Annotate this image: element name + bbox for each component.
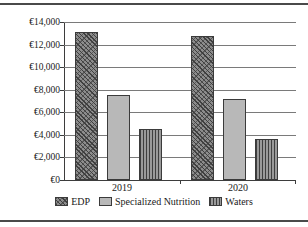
- y-axis-tick: [60, 90, 64, 91]
- document-rule-bottom: [0, 220, 308, 222]
- bar-chart: €0€2,000€4,000€6,000€8,000€10,000€12,000…: [0, 5, 308, 220]
- y-axis-tick: [60, 67, 64, 68]
- y-axis-tick-label: €14,000: [29, 18, 60, 28]
- bar-edp-2019: [75, 32, 98, 180]
- legend-label: EDP: [71, 196, 90, 207]
- y-axis-tick-label: €10,000: [29, 63, 60, 73]
- legend-swatch-icon: [209, 197, 222, 206]
- bar-edp-2020: [191, 36, 214, 180]
- y-axis-tick-label: €0: [51, 176, 61, 186]
- chart-legend: EDPSpecialized NutritionWaters: [0, 196, 308, 207]
- legend-item-edp[interactable]: EDP: [55, 196, 90, 207]
- bar-specialized-nutrition-2020: [223, 99, 246, 180]
- y-axis-tick: [60, 135, 64, 136]
- y-axis-tick: [60, 22, 64, 23]
- y-axis-tick: [60, 112, 64, 113]
- legend-swatch-icon: [55, 197, 68, 206]
- gridline: [64, 135, 296, 136]
- bar-waters-2019: [139, 129, 162, 180]
- gridline: [64, 90, 296, 91]
- y-axis-tick-label: €2,000: [34, 153, 60, 163]
- legend-label: Specialized Nutrition: [115, 196, 200, 207]
- legend-item-specialized-nutrition[interactable]: Specialized Nutrition: [99, 196, 200, 207]
- gridline: [64, 112, 296, 113]
- legend-swatch-icon: [99, 197, 112, 206]
- y-axis-tick-label: €6,000: [34, 108, 60, 118]
- bar-specialized-nutrition-2019: [107, 95, 130, 180]
- y-axis-tick-label: €12,000: [29, 41, 60, 51]
- legend-item-waters[interactable]: Waters: [209, 196, 253, 207]
- y-axis-labels: €0€2,000€4,000€6,000€8,000€10,000€12,000…: [0, 22, 60, 180]
- y-axis-tick-label: €4,000: [34, 131, 60, 141]
- legend-label: Waters: [225, 196, 253, 207]
- y-axis-tick: [60, 180, 64, 181]
- plot-area: [64, 22, 296, 180]
- gridline: [64, 67, 296, 68]
- x-axis-tick-label: 2019: [64, 183, 180, 193]
- y-axis-tick: [60, 45, 64, 46]
- y-axis-tick: [60, 157, 64, 158]
- x-axis-tick-label: 2020: [180, 183, 296, 193]
- gridline: [64, 22, 296, 23]
- gridline: [64, 45, 296, 46]
- y-axis-tick-label: €8,000: [34, 86, 60, 96]
- bar-waters-2020: [255, 139, 278, 180]
